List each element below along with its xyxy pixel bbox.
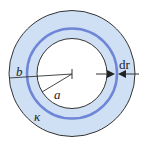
- label-a: a: [54, 87, 61, 102]
- coax-diagram: b a κ dr: [0, 0, 145, 144]
- label-dr: dr: [119, 57, 131, 72]
- label-b: b: [16, 64, 23, 79]
- label-kappa: κ: [34, 109, 41, 124]
